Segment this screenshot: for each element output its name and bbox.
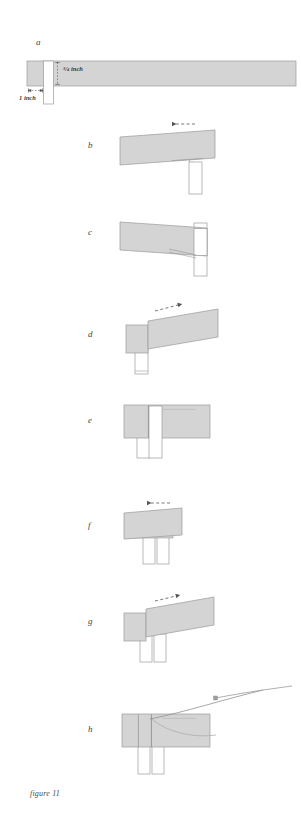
panel-label-d: d	[88, 330, 93, 339]
panel-label-h: h	[88, 725, 93, 734]
board-shape-h	[122, 714, 210, 747]
leg-left-h	[138, 746, 150, 774]
figure-11-drawing	[0, 0, 301, 836]
fraction-denominator: 4	[67, 67, 69, 72]
panel-label-f: f	[88, 521, 91, 530]
panel-label-b: b	[88, 141, 93, 150]
panel-label-g: g	[88, 617, 93, 626]
panel-c-graphic	[120, 222, 207, 276]
post-front-face-c	[194, 229, 207, 256]
panel-label-a: a	[36, 38, 41, 47]
saw-pivot-h	[214, 696, 218, 700]
leg-right-h	[152, 746, 164, 774]
panel-f-graphic	[124, 503, 182, 564]
panel-h-graphic	[122, 686, 292, 774]
tenon-shape-b	[189, 162, 202, 194]
panel-e-graphic	[124, 405, 210, 458]
leg-right-g	[154, 634, 166, 662]
panel-g-graphic	[124, 596, 214, 662]
leg-left-f	[143, 537, 155, 564]
board-shape-g	[146, 597, 214, 637]
motion-arrow-d	[155, 305, 178, 311]
width-arrow-head-right	[40, 89, 44, 92]
board-shape-d	[148, 309, 218, 349]
figure-caption: figure 11	[30, 789, 60, 798]
leg-right-f	[157, 537, 169, 564]
panel-b-graphic	[120, 124, 215, 194]
board-shape-e	[124, 405, 210, 438]
panel-label-e: e	[88, 416, 92, 425]
board-shape-a	[27, 61, 296, 86]
panel-label-c: c	[88, 228, 92, 237]
board-end-block-g	[124, 613, 146, 641]
motion-arrow-g	[155, 596, 176, 601]
panel-d-graphic	[126, 305, 218, 374]
board-shape-b	[120, 130, 215, 165]
notch-cut-a	[44, 61, 54, 104]
board-shape-f	[124, 508, 182, 539]
fraction-numerator: 3	[63, 66, 65, 71]
height-dimension-label: 3/4 inch	[63, 66, 83, 73]
width-arrow-head-left	[27, 89, 31, 92]
height-unit-text: inch	[71, 65, 83, 72]
post-shape-e	[149, 406, 162, 458]
figure-illustration: a b c d e f g h 3/4 inch 1 inch figure 1…	[0, 0, 301, 836]
fraction-three-quarters: 3/4	[63, 66, 69, 73]
board-end-block-d	[126, 325, 148, 353]
width-dimension-label: 1 inch	[19, 95, 36, 102]
